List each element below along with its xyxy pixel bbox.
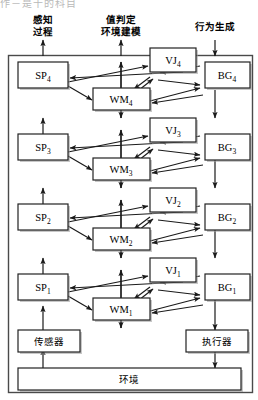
arrow-vj4-bg4 xyxy=(158,80,200,85)
node-wm4[interactable]: WM4 xyxy=(93,88,152,112)
arrow-sp3-wm3 xyxy=(68,156,92,170)
level-1-group: SP1 VJ1 WM1 BG1 xyxy=(18,258,252,322)
header-perception-line1: 感知 xyxy=(33,14,53,25)
arrow-vj1-bg1 xyxy=(158,290,200,295)
node-actuator[interactable]: 执行器 xyxy=(186,330,250,354)
node-sensor-label: 传感器 xyxy=(34,336,64,347)
node-vj4[interactable]: VJ4 xyxy=(150,48,198,74)
node-actuator-label: 执行器 xyxy=(202,336,232,347)
node-wm1[interactable]: WM1 xyxy=(93,298,152,322)
arrow-sp1-wm1 xyxy=(68,296,92,310)
column-headers-group: 感知 过程 值判定 环境建模 行为生成 xyxy=(33,14,235,37)
node-environment[interactable]: 环境 xyxy=(18,368,243,392)
node-wm3[interactable]: WM3 xyxy=(93,158,152,182)
arrow-vj3-bg3 xyxy=(158,150,200,155)
node-sp4[interactable]: SP4 xyxy=(18,62,70,90)
node-vj1[interactable]: VJ1 xyxy=(150,258,198,284)
node-bg4[interactable]: BG4 xyxy=(205,62,252,90)
level-2-group: SP2 VJ2 WM2 BG2 xyxy=(18,188,252,252)
node-bg2[interactable]: BG2 xyxy=(205,204,252,232)
node-sp2[interactable]: SP2 xyxy=(18,204,70,232)
level-3-group: SP3 VJ3 WM3 BG3 xyxy=(18,118,252,182)
header-bg-line1: 行为生成 xyxy=(194,21,235,32)
header-perception-line2: 过程 xyxy=(33,26,53,37)
node-bg3[interactable]: BG3 xyxy=(205,134,252,162)
arrow-sp4-wm4 xyxy=(68,86,92,100)
node-wm2[interactable]: WM2 xyxy=(93,228,152,252)
header-vjwm-line2: 环境建模 xyxy=(101,26,141,37)
arrow-vj2-bg2 xyxy=(158,220,200,225)
node-vj2[interactable]: VJ2 xyxy=(150,188,198,214)
figure-stage: 作－是干的科目 xyxy=(0,0,258,400)
node-sp3[interactable]: SP3 xyxy=(18,134,70,162)
node-bg1[interactable]: BG1 xyxy=(205,274,252,302)
rcs-architecture-diagram: SP4 VJ4 WM4 BG4 xyxy=(0,0,258,400)
node-environment-label: 环境 xyxy=(119,374,139,385)
node-vj3[interactable]: VJ3 xyxy=(150,118,198,144)
arrow-sp2-wm2 xyxy=(68,226,92,240)
node-sp1[interactable]: SP1 xyxy=(18,274,70,302)
level-4-group: SP4 VJ4 WM4 BG4 xyxy=(18,48,252,112)
node-sensor[interactable]: 传感器 xyxy=(18,330,82,354)
header-vjwm-line1: 值判定 xyxy=(106,14,136,25)
